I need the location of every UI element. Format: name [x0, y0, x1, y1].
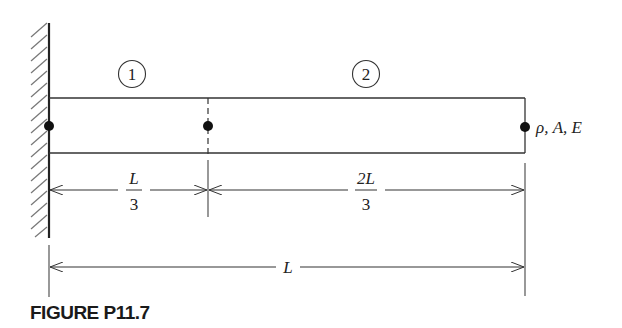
svg-text:2: 2: [362, 65, 371, 84]
total-length-label: L: [282, 258, 292, 277]
element-label-2: 2: [353, 61, 380, 88]
bar-diagram: 1 2 ρ, A, E L 3 2L 3 L: [0, 0, 622, 328]
svg-text:2L: 2L: [357, 169, 375, 188]
node-3: [520, 122, 530, 132]
wall-hatching: [31, 23, 47, 237]
svg-text:3: 3: [130, 195, 139, 214]
material-properties-label: ρ, A, E: [535, 118, 583, 137]
svg-text:1: 1: [128, 65, 137, 84]
fraction-L-over-3: L 3: [126, 169, 142, 214]
bar: [49, 98, 525, 153]
svg-text:3: 3: [362, 195, 371, 214]
fixed-wall-support: [31, 23, 49, 238]
element-label-1: 1: [119, 61, 146, 88]
svg-text:L: L: [128, 169, 138, 188]
figure-caption: FIGURE P11.7: [30, 302, 150, 324]
fraction-2L-over-3: 2L 3: [355, 169, 377, 214]
node-2: [203, 121, 213, 131]
node-1: [44, 121, 54, 131]
